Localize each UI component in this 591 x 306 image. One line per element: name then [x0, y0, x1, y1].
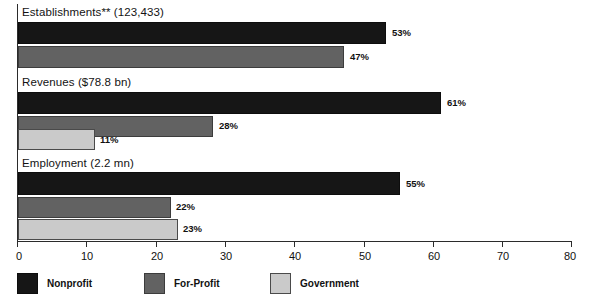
bar-revenues-nonprofit: [18, 92, 441, 114]
x-tick-40: [294, 241, 295, 247]
bar-employment-nonprofit: [18, 172, 400, 195]
bar-value-revenues-forprofit: 28%: [219, 121, 238, 131]
x-tick-70: [502, 241, 503, 247]
x-tick-30: [225, 241, 226, 247]
legend-item-forprofit: For-Profit: [144, 272, 220, 294]
x-tick-60: [433, 241, 434, 247]
bar-employment-forprofit: [18, 197, 171, 218]
bar-establishments-nonprofit: [18, 22, 386, 44]
legend-swatch-nonprofit-icon: [17, 273, 38, 294]
x-tick-label-0: 0: [16, 250, 22, 262]
x-tick-50: [364, 241, 365, 247]
bar-chart: Establishments** (123,433) Revenues ($78…: [0, 0, 591, 306]
x-tick-label-50: 50: [359, 250, 371, 262]
group-label-establishments: Establishments** (123,433): [22, 6, 164, 19]
x-tick-20: [156, 241, 157, 247]
bar-value-employment-nonprofit: 55%: [406, 179, 425, 189]
x-tick-10: [86, 241, 87, 247]
legend-swatch-government-icon: [270, 273, 291, 294]
bar-value-establishments-nonprofit: 53%: [392, 28, 411, 38]
x-tick-label-40: 40: [289, 250, 301, 262]
x-tick-label-70: 70: [497, 250, 509, 262]
group-label-employment: Employment (2.2 mn): [22, 157, 134, 170]
bar-value-employment-government: 23%: [183, 224, 202, 234]
bar-value-revenues-government: 11%: [100, 135, 119, 145]
legend-label-government: Government: [300, 278, 359, 289]
x-tick-0: [17, 241, 18, 247]
legend-item-government: Government: [270, 272, 359, 294]
legend-swatch-forprofit-icon: [144, 273, 165, 294]
bar-value-revenues-nonprofit: 61%: [447, 98, 466, 108]
x-tick-label-20: 20: [151, 250, 163, 262]
x-tick-label-10: 10: [81, 250, 93, 262]
bar-revenues-government: [18, 129, 95, 150]
x-tick-label-60: 60: [428, 250, 440, 262]
bar-value-employment-forprofit: 22%: [176, 202, 195, 212]
x-tick-label-80: 80: [564, 250, 576, 262]
group-label-revenues: Revenues ($78.8 bn): [22, 76, 131, 89]
bar-employment-government: [18, 219, 178, 240]
legend-item-nonprofit: Nonprofit: [17, 272, 92, 294]
x-tick-label-30: 30: [220, 250, 232, 262]
bar-value-establishments-forprofit: 47%: [350, 52, 369, 62]
x-tick-80: [571, 241, 572, 247]
legend-label-forprofit: For-Profit: [174, 278, 220, 289]
bar-establishments-forprofit: [18, 46, 344, 68]
legend-label-nonprofit: Nonprofit: [47, 278, 92, 289]
